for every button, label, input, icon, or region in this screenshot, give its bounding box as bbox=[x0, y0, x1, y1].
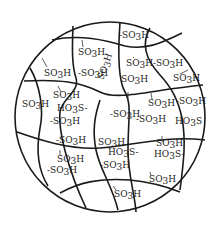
sulfonic-acid-label: SO3H bbox=[114, 189, 141, 201]
sulfonic-acid-label: SO3H bbox=[22, 99, 49, 111]
sulfonic-acid-label: SO3H bbox=[126, 58, 153, 70]
sulfonic-acid-label: -SO3H bbox=[136, 114, 166, 126]
sulfonic-acid-label: -SO3H bbox=[50, 116, 80, 128]
sulfonic-acid-label: HO3S- bbox=[108, 147, 139, 159]
label-group: -SO3HSO3HSO3H-SO3HSO3H-SO3HSO3HSO3HSO3H-… bbox=[22, 30, 206, 201]
sulfonic-acid-label: -SO3H bbox=[176, 96, 206, 108]
sulfonic-acid-label: SO3H bbox=[78, 47, 105, 59]
sulfonic-acid-label: SO3H bbox=[173, 73, 200, 85]
sulfonic-acid-label: SO3H bbox=[44, 68, 71, 80]
sulfonic-acid-label: -SO3H bbox=[153, 58, 183, 70]
sulfonic-acid-label: HO3S- bbox=[57, 103, 88, 115]
sulfonic-acid-label: SO3H bbox=[148, 98, 175, 110]
attachment-tick bbox=[82, 40, 83, 47]
sulfonic-acid-label: HO3S bbox=[175, 116, 202, 128]
sulfonic-acid-label: SO3H bbox=[121, 74, 148, 86]
attachment-tick bbox=[42, 58, 47, 67]
network-line bbox=[30, 68, 48, 186]
sulfonic-acid-label: -SO3H bbox=[100, 160, 130, 172]
network-line bbox=[52, 33, 182, 47]
sulfonic-acid-label: HO3S- bbox=[154, 149, 185, 161]
sulfonated-particle-diagram: -SO3HSO3HSO3H-SO3HSO3H-SO3HSO3HSO3HSO3H-… bbox=[0, 0, 219, 228]
sulfonic-acid-label: SO3H bbox=[53, 90, 80, 102]
